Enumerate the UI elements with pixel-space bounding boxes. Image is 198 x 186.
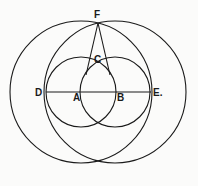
label-A: A (73, 92, 80, 103)
line-FB (98, 23, 110, 75)
label-C: C (94, 54, 101, 65)
label-B: B (117, 92, 124, 103)
label-D: D (35, 87, 42, 98)
line-FA (86, 23, 98, 75)
geometry-diagram: F C D A B E. (0, 0, 198, 186)
label-F: F (94, 9, 100, 20)
diagram-canvas: F C D A B E. (0, 0, 198, 186)
label-E: E. (153, 87, 163, 98)
